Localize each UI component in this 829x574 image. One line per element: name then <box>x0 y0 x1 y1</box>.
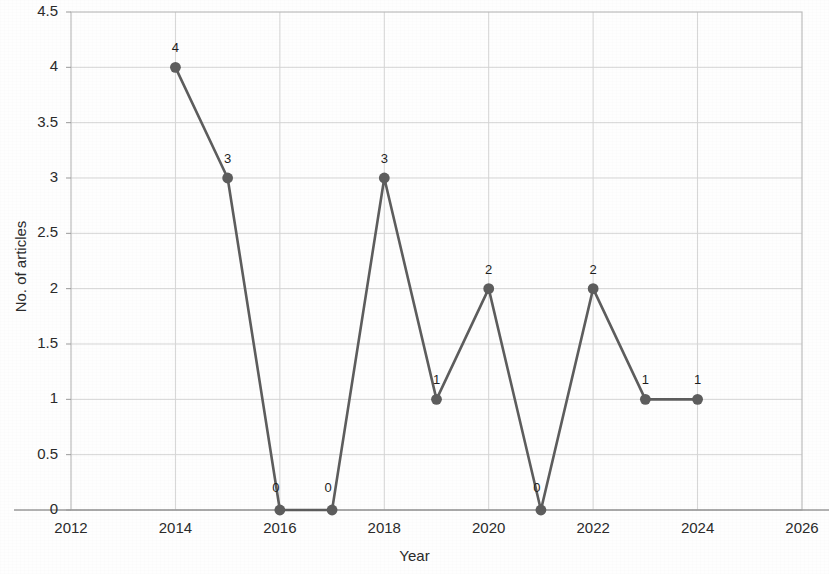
y-tick-label: 3 <box>2 168 58 185</box>
x-tick-label: 2026 <box>762 519 829 536</box>
y-tick-label: 1.5 <box>2 334 58 351</box>
data-point-label: 3 <box>216 151 240 166</box>
x-axis-title: Year <box>0 547 829 564</box>
data-point-label: 1 <box>633 372 657 387</box>
data-point-marker[interactable] <box>274 505 285 516</box>
data-point-marker[interactable] <box>692 394 703 405</box>
data-point-marker[interactable] <box>483 283 494 294</box>
data-point-label: 2 <box>581 262 605 277</box>
data-point-marker[interactable] <box>379 173 390 184</box>
y-tick-label: 0.5 <box>2 445 58 462</box>
y-tick-label: 4.5 <box>2 2 58 19</box>
data-point-label: 3 <box>372 151 396 166</box>
x-tick-label: 2018 <box>344 519 424 536</box>
y-tick-label: 4 <box>2 57 58 74</box>
data-point-label: 0 <box>264 480 288 495</box>
x-tick-label: 2012 <box>31 519 111 536</box>
x-tick-label: 2022 <box>553 519 633 536</box>
data-point-label: 0 <box>525 480 549 495</box>
data-point-marker[interactable] <box>640 394 651 405</box>
data-point-marker[interactable] <box>170 62 181 73</box>
data-point-label: 4 <box>163 40 187 55</box>
y-tick-label: 3.5 <box>2 113 58 130</box>
y-tick-label: 2 <box>2 279 58 296</box>
data-point-marker[interactable] <box>222 173 233 184</box>
y-axis-title: No. of articles <box>12 187 29 347</box>
data-point-marker[interactable] <box>327 505 338 516</box>
data-point-label: 0 <box>316 480 340 495</box>
line-chart: No. of articles Year 00.511.522.533.544.… <box>0 0 829 574</box>
data-point-label: 1 <box>686 372 710 387</box>
data-point-marker[interactable] <box>431 394 442 405</box>
plot-background <box>71 12 802 510</box>
data-point-marker[interactable] <box>588 283 599 294</box>
data-point-label: 2 <box>477 262 501 277</box>
data-point-marker[interactable] <box>536 505 547 516</box>
x-tick-label: 2014 <box>135 519 215 536</box>
chart-canvas <box>0 0 829 574</box>
y-tick-label: 0 <box>2 500 58 517</box>
x-tick-label: 2020 <box>449 519 529 536</box>
data-point-label: 1 <box>425 372 449 387</box>
y-tick-label: 1 <box>2 389 58 406</box>
y-tick-label: 2.5 <box>2 223 58 240</box>
x-tick-label: 2016 <box>240 519 320 536</box>
x-tick-label: 2024 <box>658 519 738 536</box>
